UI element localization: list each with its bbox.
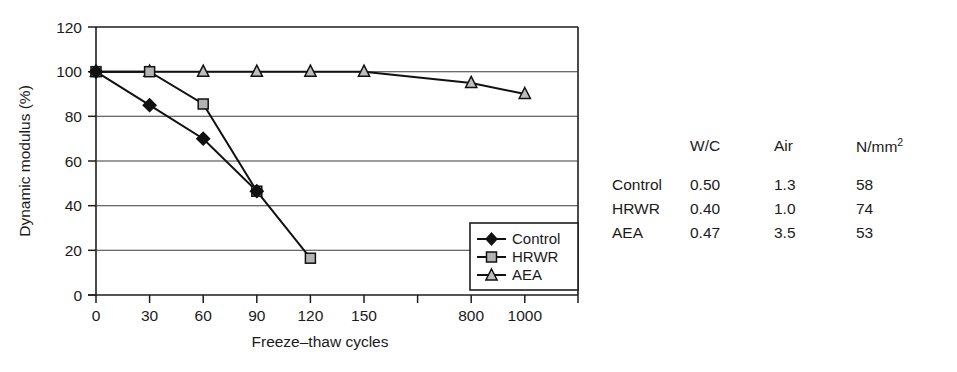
legend-label-control: Control [512, 230, 560, 247]
table-header-wc: W/C [690, 136, 774, 175]
series-line-control [96, 72, 257, 192]
x-tick-label: 1000 [508, 307, 543, 324]
row-air-control: 1.3 [774, 175, 856, 199]
table-row: Control 0.50 1.3 58 [612, 175, 926, 199]
legend-label-hrwr: HRWR [512, 248, 559, 265]
x-tick-label: 60 [195, 307, 213, 324]
y-tick-label: 0 [73, 287, 82, 304]
row-label-control: Control [612, 175, 690, 199]
freeze-thaw-figure: 0 20 40 60 80 100 120 0 30 60 90 [0, 0, 957, 372]
legend-label-aea: AEA [512, 266, 542, 283]
row-air-aea: 3.5 [774, 223, 856, 247]
table-header-air: Air [774, 136, 856, 175]
row-air-hrwr: 1.0 [774, 199, 856, 223]
x-tick-label: 0 [92, 307, 101, 324]
table-header-strength: N/mm2 [856, 136, 926, 175]
table-header-blank [612, 136, 690, 175]
row-strength-hrwr: 74 [856, 199, 926, 223]
x-tick-label: 800 [458, 307, 484, 324]
x-tick-label: 150 [351, 307, 377, 324]
row-wc-control: 0.50 [690, 175, 774, 199]
row-label-aea: AEA [612, 223, 690, 247]
series-markers-hrwr [91, 67, 315, 264]
row-strength-aea: 53 [856, 223, 926, 247]
x-tick-label: 120 [297, 307, 323, 324]
x-axis-tick-labels: 0 30 60 90 120 150 800 1000 [92, 307, 543, 324]
row-wc-hrwr: 0.40 [690, 199, 774, 223]
dynamic-modulus-chart: 0 20 40 60 80 100 120 0 30 60 90 [0, 0, 600, 372]
table-row: HRWR 0.40 1.0 74 [612, 199, 926, 223]
x-axis-title: Freeze–thaw cycles [252, 333, 389, 350]
chart-legend[interactable]: Control HRWR AEA [470, 223, 578, 290]
y-tick-label: 20 [65, 242, 83, 259]
table-header-row: W/C Air N/mm2 [612, 136, 926, 175]
y-tick-label: 120 [56, 19, 82, 36]
y-tick-label: 40 [65, 197, 83, 214]
y-tick-label: 60 [65, 153, 83, 170]
mix-properties-table: W/C Air N/mm2 Control 0.50 1.3 58 HRWR 0… [612, 136, 952, 247]
table-header-strength-text: N/mm [856, 138, 897, 155]
row-label-hrwr: HRWR [612, 199, 690, 223]
y-axis-tick-labels: 0 20 40 60 80 100 120 [56, 19, 82, 304]
x-tick-label: 30 [141, 307, 159, 324]
table-header-strength-superscript: 2 [897, 136, 903, 148]
row-strength-control: 58 [856, 175, 926, 199]
x-tick-label: 90 [248, 307, 266, 324]
y-tick-label: 100 [56, 63, 82, 80]
x-axis-ticks [96, 295, 578, 303]
y-tick-label: 80 [65, 108, 83, 125]
row-wc-aea: 0.47 [690, 223, 774, 247]
y-axis-title: Dynamic modulus (%) [16, 85, 33, 237]
table-row: AEA 0.47 3.5 53 [612, 223, 926, 247]
